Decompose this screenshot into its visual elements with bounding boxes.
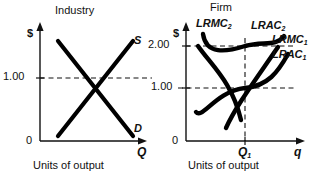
- industry-x-axis-symbol: Q: [137, 146, 146, 158]
- industry-origin-label: 0: [26, 135, 32, 146]
- lrac1-curve-label: LRAC1: [272, 49, 306, 60]
- firm-x-axis-symbol: q: [294, 146, 301, 158]
- economics-two-panel-figure: $ Industry 1.00 0 Q S D Units of output …: [0, 0, 330, 177]
- industry-x-axis-arrow: [138, 137, 147, 144]
- industry-panel-title: Industry: [55, 5, 94, 16]
- firm-x-tick-subscript: 1: [247, 152, 251, 159]
- industry-x-axis-caption: Units of output: [33, 160, 104, 171]
- firm-y-axis-arrow: [182, 22, 189, 31]
- demand-curve-label: D: [134, 123, 142, 134]
- firm-y-axis-dollar-label: $: [173, 28, 179, 39]
- lrmc1-label-subscript: 1: [304, 39, 308, 46]
- industry-y-axis-arrow: [36, 22, 43, 31]
- firm-panel-title: Firm: [210, 2, 232, 13]
- lrmc2-curve-label: LRMC2: [196, 18, 232, 29]
- lrac2-label-subscript: 2: [282, 25, 286, 32]
- firm-x-tick-label-Q1: Q1: [238, 146, 251, 158]
- firm-y-tick-label-2.00: 2.00: [148, 39, 169, 50]
- lrac2-curve-label: LRAC2: [251, 20, 285, 31]
- lrac1-label-subscript: 1: [303, 54, 307, 61]
- lrac1-label-base: LRAC: [272, 48, 303, 60]
- firm-x-tick-base: Q: [238, 145, 247, 159]
- lrmc1-curve-label: LRMC1: [272, 34, 308, 45]
- lrac2-label-base: LRAC: [251, 19, 282, 31]
- firm-origin-label: 0: [172, 135, 178, 146]
- firm-x-axis-caption: Units of output: [188, 160, 259, 171]
- lrmc2-label-base: LRMC: [196, 17, 228, 29]
- industry-y-axis-dollar-label: $: [27, 28, 33, 39]
- lrmc2-label-subscript: 2: [228, 23, 232, 30]
- industry-y-tick-label-1.00: 1.00: [3, 71, 24, 82]
- firm-y-tick-label-1.00: 1.00: [151, 81, 172, 92]
- supply-curve-label: S: [134, 35, 141, 46]
- firm-x-axis-arrow: [296, 137, 305, 144]
- lrmc1-label-base: LRMC: [272, 33, 304, 45]
